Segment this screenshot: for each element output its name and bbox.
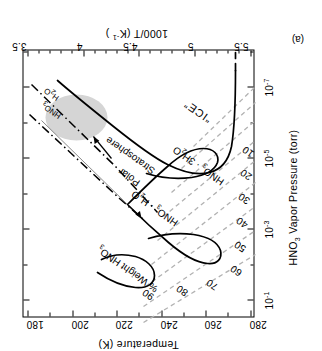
ytick-label-200: 200 <box>71 319 88 329</box>
ytick-label-280: 280 <box>249 319 266 329</box>
xtick-label-4: 10-7 <box>262 78 274 96</box>
rotated-figure-stage: HNO3 · H2O HNO3 · 3H2O “ICE” % Weight HN… <box>0 0 322 351</box>
y2-axis-title: 1000/T (K-1 ) <box>105 28 167 41</box>
ytick-label-220: 220 <box>115 319 132 329</box>
y2tick-label-5: 5 <box>187 40 193 50</box>
y-axis-title: Temperature (K) <box>98 339 178 351</box>
ytick-label-260: 260 <box>204 319 221 329</box>
ytick-label-240: 240 <box>160 319 177 329</box>
xtick-label-3: 10-5 <box>262 149 274 167</box>
plot-frame: HNO3 · H2O HNO3 · 3H2O “ICE” % Weight HN… <box>22 49 254 317</box>
saturation-guide-line <box>41 120 127 204</box>
y2tick-label-4-5: 4.5 <box>122 40 137 50</box>
y2tick-label-3-5: 3.5 <box>11 40 26 50</box>
figure-root: HNO3 · H2O HNO3 · 3H2O “ICE” % Weight HN… <box>0 0 322 351</box>
y2tick-label-4: 4 <box>76 40 82 50</box>
xtick-label-1: 10-1 <box>262 291 274 309</box>
panel-label: (a) <box>291 33 303 44</box>
xtick-label-2: 10-3 <box>262 220 274 238</box>
ytick-label-180: 180 <box>26 319 43 329</box>
x-axis-title: HNO3 Vapor Pressure (torr) <box>286 129 300 265</box>
y2tick-label-5-5: 5.5 <box>233 40 248 50</box>
